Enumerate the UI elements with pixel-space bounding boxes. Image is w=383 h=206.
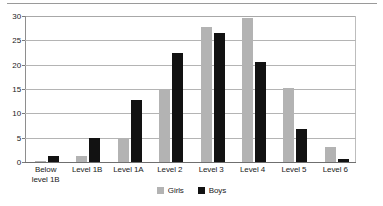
bar-group bbox=[25, 16, 66, 162]
y-tick-label: 0 bbox=[17, 158, 21, 167]
x-tick-label: Below level 1B bbox=[25, 165, 66, 185]
legend-swatch-icon bbox=[198, 187, 205, 194]
x-tick-label: Level 4 bbox=[232, 165, 273, 175]
bar-group bbox=[315, 16, 356, 162]
bar-boys-level-2 bbox=[172, 53, 183, 163]
y-tick-label: 5 bbox=[17, 133, 21, 142]
bar-boys-level-4 bbox=[255, 62, 266, 162]
legend-item-boys[interactable]: Boys bbox=[198, 186, 226, 195]
bar-girls-level-5 bbox=[283, 88, 294, 162]
x-tick-label: Level 5 bbox=[273, 165, 314, 175]
bar-girls-level-4 bbox=[242, 18, 253, 162]
bar-girls-level-3 bbox=[201, 27, 212, 162]
bar-girls-level-2 bbox=[159, 90, 170, 163]
bars-layer bbox=[25, 16, 356, 162]
y-tick-label: 30 bbox=[12, 12, 21, 21]
bar-group bbox=[191, 16, 232, 162]
y-tick-label: 20 bbox=[12, 60, 21, 69]
x-tick-label: Level 1B bbox=[66, 165, 107, 175]
x-axis-baseline bbox=[25, 162, 356, 163]
bar-boys-level-5 bbox=[296, 129, 307, 162]
bar-boys-level-1b bbox=[89, 138, 100, 162]
bar-chart-figure: 051015202530 Below level 1BLevel 1BLevel… bbox=[0, 0, 383, 206]
bar-group bbox=[108, 16, 149, 162]
bar-boys-level-3 bbox=[214, 33, 225, 162]
bar-girls-level-1a bbox=[118, 138, 129, 162]
x-tick-label: Level 3 bbox=[191, 165, 232, 175]
legend-item-girls[interactable]: Girls bbox=[157, 186, 184, 195]
bar-group bbox=[149, 16, 190, 162]
bar-group bbox=[273, 16, 314, 162]
bar-group bbox=[66, 16, 107, 162]
plot-area: 051015202530 bbox=[25, 16, 356, 163]
top-divider-rule bbox=[7, 3, 377, 4]
y-tick-label: 10 bbox=[12, 109, 21, 118]
y-tick-label: 25 bbox=[12, 36, 21, 45]
legend-swatch-icon bbox=[157, 187, 164, 194]
bar-group bbox=[232, 16, 273, 162]
x-tick-label: Level 6 bbox=[315, 165, 356, 175]
x-tick-label: Level 1A bbox=[108, 165, 149, 175]
legend-label: Boys bbox=[209, 186, 226, 195]
x-tick-label: Level 2 bbox=[149, 165, 190, 175]
bar-boys-level-1a bbox=[131, 100, 142, 162]
legend-label: Girls bbox=[168, 186, 184, 195]
y-tick-label: 15 bbox=[12, 85, 21, 94]
chart-legend: GirlsBoys bbox=[0, 186, 383, 195]
bar-girls-level-6 bbox=[325, 147, 336, 162]
